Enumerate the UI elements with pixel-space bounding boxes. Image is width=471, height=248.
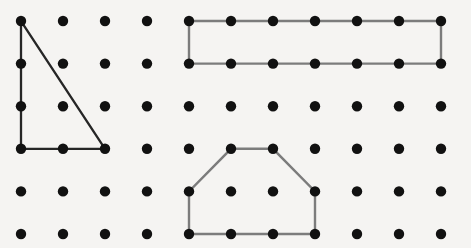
- grid-dot[interactable]: [352, 16, 362, 26]
- geoboard-stage: [0, 0, 471, 248]
- grid-dot[interactable]: [226, 58, 236, 68]
- grid-dot[interactable]: [58, 16, 68, 26]
- grid-dot[interactable]: [226, 144, 236, 154]
- grid-dot[interactable]: [184, 186, 194, 196]
- grid-dot[interactable]: [58, 58, 68, 68]
- grid-dot[interactable]: [310, 101, 320, 111]
- grid-dot[interactable]: [394, 186, 404, 196]
- grid-dot[interactable]: [58, 101, 68, 111]
- grid-dot[interactable]: [184, 229, 194, 239]
- grid-dot[interactable]: [142, 186, 152, 196]
- grid-dot[interactable]: [100, 58, 110, 68]
- canvas-background: [0, 0, 471, 248]
- grid-dot[interactable]: [436, 229, 446, 239]
- grid-dot[interactable]: [436, 144, 446, 154]
- grid-dot[interactable]: [268, 16, 278, 26]
- grid-dot[interactable]: [16, 186, 26, 196]
- grid-dot[interactable]: [352, 229, 362, 239]
- grid-dot[interactable]: [310, 144, 320, 154]
- grid-dot[interactable]: [310, 229, 320, 239]
- grid-dot[interactable]: [184, 58, 194, 68]
- grid-dot[interactable]: [184, 101, 194, 111]
- grid-dot[interactable]: [16, 101, 26, 111]
- grid-dot[interactable]: [142, 58, 152, 68]
- grid-dot[interactable]: [100, 144, 110, 154]
- grid-dot[interactable]: [58, 229, 68, 239]
- grid-dot[interactable]: [16, 144, 26, 154]
- grid-dot[interactable]: [352, 144, 362, 154]
- grid-dot[interactable]: [142, 144, 152, 154]
- grid-dot[interactable]: [352, 58, 362, 68]
- grid-dot[interactable]: [16, 58, 26, 68]
- grid-dot[interactable]: [142, 229, 152, 239]
- grid-dot[interactable]: [310, 186, 320, 196]
- grid-dot[interactable]: [394, 101, 404, 111]
- grid-dot[interactable]: [58, 186, 68, 196]
- grid-dot[interactable]: [268, 101, 278, 111]
- grid-dot[interactable]: [142, 16, 152, 26]
- grid-dot[interactable]: [436, 58, 446, 68]
- grid-dot[interactable]: [100, 101, 110, 111]
- grid-dot[interactable]: [16, 229, 26, 239]
- grid-dot[interactable]: [226, 229, 236, 239]
- grid-dot[interactable]: [310, 16, 320, 26]
- grid-dot[interactable]: [394, 144, 404, 154]
- grid-dot[interactable]: [268, 144, 278, 154]
- dot-grid-canvas: [0, 0, 471, 248]
- grid-dot[interactable]: [100, 16, 110, 26]
- grid-dot[interactable]: [394, 229, 404, 239]
- grid-dot[interactable]: [58, 144, 68, 154]
- grid-dot[interactable]: [184, 144, 194, 154]
- grid-dot[interactable]: [436, 101, 446, 111]
- grid-dot[interactable]: [394, 16, 404, 26]
- grid-dot[interactable]: [184, 16, 194, 26]
- grid-dot[interactable]: [310, 58, 320, 68]
- grid-dot[interactable]: [142, 101, 152, 111]
- grid-dot[interactable]: [352, 101, 362, 111]
- grid-dot[interactable]: [268, 229, 278, 239]
- grid-dot[interactable]: [436, 16, 446, 26]
- grid-dot[interactable]: [352, 186, 362, 196]
- grid-dot[interactable]: [268, 58, 278, 68]
- grid-dot[interactable]: [226, 186, 236, 196]
- grid-dot[interactable]: [226, 16, 236, 26]
- grid-dot[interactable]: [226, 101, 236, 111]
- grid-dot[interactable]: [100, 186, 110, 196]
- grid-dot[interactable]: [268, 186, 278, 196]
- grid-dot[interactable]: [100, 229, 110, 239]
- grid-dot[interactable]: [16, 16, 26, 26]
- grid-dot[interactable]: [436, 186, 446, 196]
- grid-dot[interactable]: [394, 58, 404, 68]
